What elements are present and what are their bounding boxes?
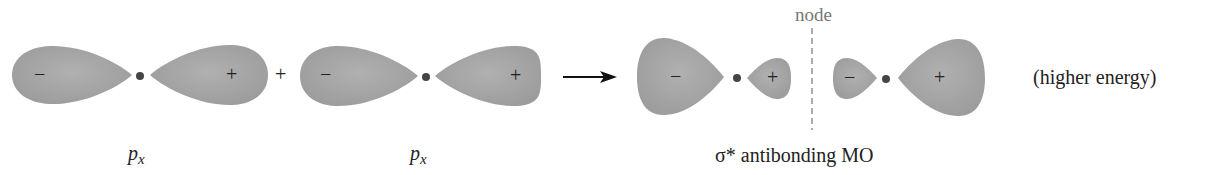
sign-negative: − [320, 64, 331, 84]
node-label: node [795, 5, 832, 24]
lobe-negative [300, 46, 418, 106]
sign-negative: − [34, 64, 45, 84]
nucleus [882, 75, 890, 83]
sigma-star-mo [637, 28, 985, 130]
lobe-positive [435, 46, 541, 106]
orbital-label-main: p [410, 142, 420, 164]
nucleus [136, 72, 144, 80]
nucleus [733, 74, 741, 82]
mo-label: σ* antibonding MO [715, 145, 874, 165]
nucleus [422, 73, 430, 81]
energy-note: (higher energy) [1033, 67, 1156, 87]
arrow-icon [563, 71, 617, 83]
orbital-label-px-2: px [410, 143, 427, 167]
orbital-label-sub: x [138, 151, 145, 167]
sign-negative: − [844, 67, 855, 87]
orbital-label-main: p [128, 142, 138, 164]
sign-positive: + [767, 67, 778, 87]
orbital-diagram [0, 0, 1205, 175]
sign-negative: − [670, 66, 681, 86]
orbital-label-px-1: px [128, 143, 145, 167]
px-orbital-2 [300, 46, 541, 106]
orbital-label-sub: x [420, 151, 427, 167]
sign-positive: + [934, 67, 945, 87]
sign-positive: + [510, 65, 521, 85]
sign-positive: + [226, 64, 237, 84]
plus-operator: + [275, 64, 286, 84]
lobe-positive [150, 45, 268, 105]
lobe-negative [12, 46, 132, 104]
